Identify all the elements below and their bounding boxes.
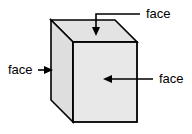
cube-shape bbox=[51, 20, 137, 122]
top-face-label: face bbox=[146, 6, 171, 21]
left-face-annotation: face bbox=[8, 62, 53, 77]
diagram-canvas: face face face bbox=[0, 0, 192, 134]
right-face-label: face bbox=[159, 71, 184, 86]
cube-diagram: face face face bbox=[0, 0, 192, 134]
left-face-label: face bbox=[8, 62, 33, 77]
cube-front-face bbox=[73, 42, 137, 122]
